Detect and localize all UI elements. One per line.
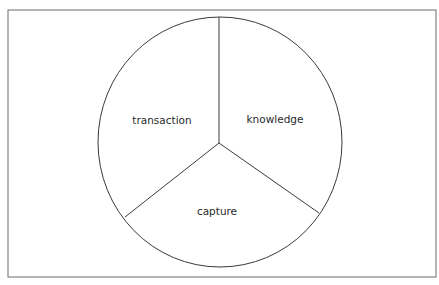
sector-label-capture: capture — [197, 205, 237, 217]
diagram-frame — [8, 10, 436, 277]
diagram-canvas: transaction knowledge capture — [0, 0, 439, 285]
sector-label-transaction: transaction — [132, 114, 191, 126]
sector-label-knowledge: knowledge — [247, 113, 304, 125]
